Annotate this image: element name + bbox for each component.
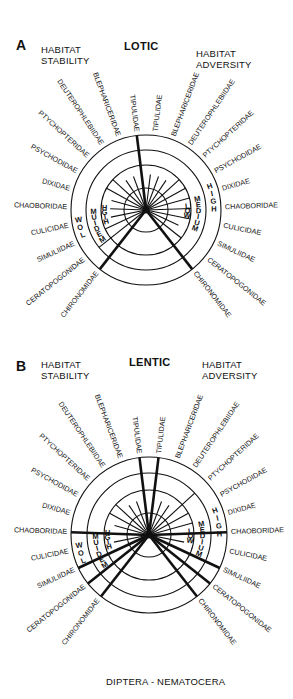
taxon-label: DIXIDAE: [41, 176, 71, 192]
taxon-label: CHAOBORIDAE: [14, 525, 68, 536]
taxon-label: CHAOBORIDAE: [14, 200, 68, 211]
scale-letter: M: [90, 207, 97, 216]
taxon-label: CULICIDAE: [229, 546, 269, 563]
scale-letter: H: [211, 204, 217, 213]
taxon-label: CHAOBORIDAE: [225, 200, 279, 211]
panel-lotic: A HABITAT STABILITY LOTIC HABITAT ADVERS…: [0, 0, 293, 345]
polar-diagram-lentic: TIPULIDAETIPULIDAEBLEPHARICERIDAEBLEPHAR…: [0, 345, 293, 699]
scale-letter: M: [191, 223, 200, 234]
taxon-label: CULICIDAE: [223, 221, 263, 238]
taxon-label: CHAOBORIDAE: [231, 525, 285, 536]
taxon-label: CULICIDAE: [30, 221, 70, 238]
taxon-label: CULICIDAE: [30, 546, 70, 563]
scale-letter: W: [75, 540, 84, 550]
taxon-label: TIPULIDAE: [131, 416, 144, 454]
taxon-label: TIPULIDAE: [128, 94, 141, 132]
scale-letter: H: [217, 529, 223, 538]
taxon-label: PSYCHODIDAE: [30, 465, 80, 498]
taxon-label: TIPULIDAE: [154, 416, 167, 454]
taxon-label: SIMULIIDAE: [35, 239, 76, 264]
scale-letter: H: [102, 203, 108, 212]
scale-letter: M: [92, 532, 99, 541]
taxon-label: PSYCHODIDAE: [218, 465, 268, 498]
taxon-label: TIPULIDAE: [151, 94, 164, 132]
taxon-label: DIXIDAE: [41, 500, 71, 516]
figure-caption: DIPTERA - NEMATOCERA: [106, 676, 225, 687]
scale-letter: H: [105, 528, 111, 537]
polar-diagram-lotic: TIPULIDAETIPULIDAEBLEPHARICERIDAEBLEPHAR…: [0, 0, 293, 345]
taxon-label: DIXIDAE: [227, 500, 257, 516]
scale-letter: W: [75, 215, 84, 225]
taxon-label: SIMULIIDAE: [216, 239, 257, 264]
taxon-label: SIMULIIDAE: [222, 565, 263, 590]
panel-lentic: B HABITAT STABILITY LENTIC HABITAT ADVER…: [0, 345, 293, 699]
taxon-label: SIMULIIDAE: [36, 565, 77, 590]
taxon-label: DIXIDAE: [221, 176, 251, 192]
